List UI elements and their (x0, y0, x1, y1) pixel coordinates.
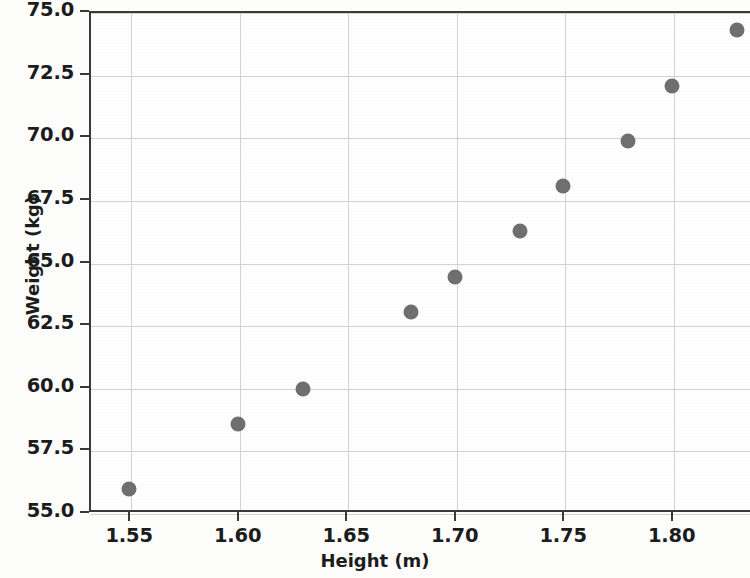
y-tick-mark (80, 323, 89, 325)
gridline-vertical (131, 13, 132, 510)
x-tick-label: 1.55 (105, 524, 152, 547)
gridline-horizontal (91, 13, 750, 14)
x-axis-label: Height (m) (0, 550, 750, 571)
x-tick-label: 1.70 (431, 524, 478, 547)
data-point (230, 417, 245, 432)
y-tick-mark (80, 73, 89, 75)
data-point (404, 304, 419, 319)
y-tick-label: 55.0 (27, 499, 74, 522)
x-tick-label: 1.65 (322, 524, 369, 547)
data-point (512, 224, 527, 239)
data-point (729, 22, 744, 37)
x-tick-label: 1.80 (648, 524, 695, 547)
gridline-horizontal (91, 138, 750, 139)
gridline-horizontal (91, 389, 750, 390)
gridline-horizontal (91, 326, 750, 327)
gridline-vertical (348, 13, 349, 510)
gridline-horizontal (91, 514, 750, 515)
scatter-plot-figure: 55.057.560.062.565.067.570.072.575.0 1.5… (0, 0, 750, 578)
x-tick-mark (454, 512, 456, 521)
data-point (295, 382, 310, 397)
gridline-vertical (457, 13, 458, 510)
plot-area (89, 11, 750, 512)
y-tick-mark (80, 448, 89, 450)
x-tick-mark (128, 512, 130, 521)
gridline-horizontal (91, 201, 750, 202)
data-point (122, 482, 137, 497)
y-tick-mark (80, 198, 89, 200)
gridline-horizontal (91, 264, 750, 265)
y-axis-label: Weight (kg) (22, 106, 43, 406)
x-tick-mark (345, 512, 347, 521)
y-tick-label: 75.0 (27, 0, 74, 21)
gridline-vertical (240, 13, 241, 510)
data-point (664, 79, 679, 94)
x-tick-label: 1.60 (214, 524, 261, 547)
gridline-horizontal (91, 451, 750, 452)
y-tick-label: 72.5 (27, 61, 74, 84)
gridline-horizontal (91, 76, 750, 77)
data-point (447, 269, 462, 284)
x-tick-mark (237, 512, 239, 521)
x-tick-mark (562, 512, 564, 521)
y-tick-mark (80, 10, 89, 12)
y-tick-mark (80, 386, 89, 388)
y-tick-mark (80, 261, 89, 263)
x-tick-label: 1.75 (540, 524, 587, 547)
gridline-vertical (565, 13, 566, 510)
data-point (621, 134, 636, 149)
y-tick-label: 57.5 (27, 436, 74, 459)
y-tick-mark (80, 135, 89, 137)
x-tick-mark (671, 512, 673, 521)
y-tick-mark (80, 511, 89, 513)
data-point (556, 179, 571, 194)
